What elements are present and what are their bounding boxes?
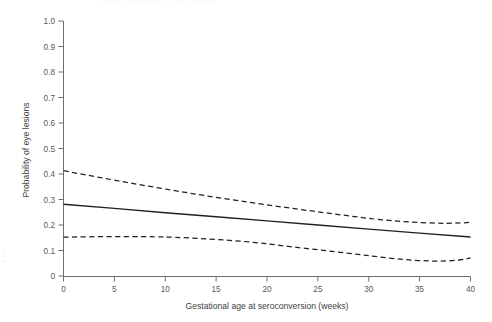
y-tick-label: 0 [50, 272, 55, 281]
probability-of-eye-lesions-chart: 1.0 0.9 0.8 0.7 0.6 0.5 0.4 0.3 0.2 0.1 … [0, 0, 492, 322]
x-tick-label: 25 [313, 285, 323, 294]
x-tick-label: 35 [415, 285, 425, 294]
y-tick-label: 0.2 [44, 221, 56, 230]
y-tick-label: 0.4 [44, 170, 56, 179]
chart-background [0, 0, 492, 322]
y-tick-label: 0.9 [44, 43, 56, 52]
x-tick-label: 5 [112, 285, 117, 294]
figure-root: 1.0 0.9 0.8 0.7 0.6 0.5 0.4 0.3 0.2 0.1 … [0, 0, 492, 322]
x-tick-label: 30 [364, 285, 374, 294]
cropped-header-artifact [100, 0, 216, 3]
x-tick-label: 10 [161, 285, 171, 294]
y-tick-label: 0.5 [44, 145, 56, 154]
x-tick-label: 0 [61, 285, 66, 294]
y-tick-label: 0.3 [44, 196, 56, 205]
x-tick-label: 15 [212, 285, 222, 294]
y-tick-label: 0.8 [44, 68, 56, 77]
y-tick-label: 1.0 [44, 17, 56, 26]
x-tick-label: 40 [466, 285, 476, 294]
x-axis-title: Gestational age at seroconversion (weeks… [186, 301, 349, 311]
x-tick-label: 20 [262, 285, 272, 294]
y-axis-title: Probability of eye lesions [21, 102, 31, 197]
y-tick-label: 0.1 [44, 247, 56, 256]
y-tick-label: 0.7 [44, 94, 56, 103]
y-tick-label: 0.6 [44, 119, 56, 128]
side-margin-artifact [2, 252, 6, 262]
